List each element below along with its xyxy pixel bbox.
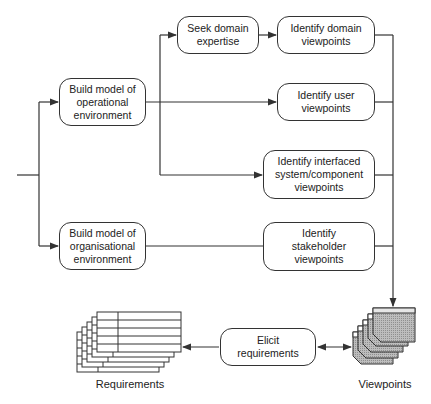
elicit-requirements-node: Elicit requirements: [220, 328, 316, 366]
identify-domain-viewpoints-node: Identify domain viewpoints: [277, 16, 375, 54]
build-operational-model-node: Build model of operational environment: [59, 78, 146, 126]
viewpoints-stack-icon: [353, 308, 415, 364]
seek-domain-expertise-node: Seek domain expertise: [177, 16, 259, 54]
identify-user-viewpoints-node: Identify user viewpoints: [277, 83, 375, 121]
requirements-stack-icon: [77, 312, 181, 372]
connector-lines: [0, 0, 431, 404]
build-organisational-model-node: Build model of organisational environmen…: [59, 222, 146, 270]
requirements-label: Requirements: [85, 378, 175, 390]
identify-interfaced-viewpoints-node: Identify interfaced system/component vie…: [263, 150, 375, 199]
viewpoints-label: Viewpoints: [350, 378, 420, 390]
identify-stakeholder-viewpoints-node: Identify stakeholder viewpoints: [263, 222, 375, 271]
